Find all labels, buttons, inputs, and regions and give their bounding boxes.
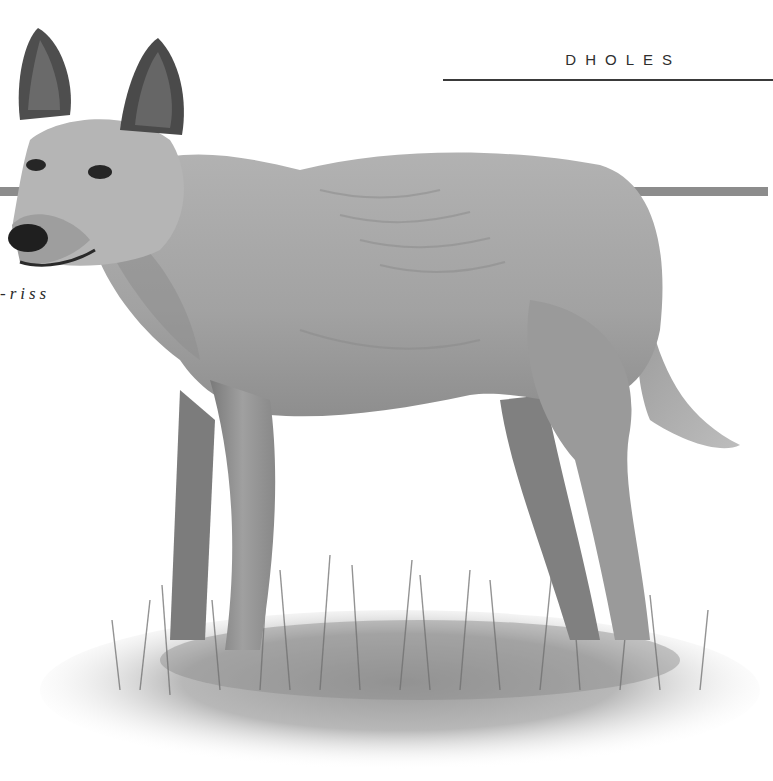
- pronunciation-fragment: -riss: [0, 284, 50, 304]
- chapter-underline: [443, 79, 773, 81]
- nose: [8, 224, 48, 252]
- book-page: DHOLES -riss: [0, 0, 773, 781]
- left-eye: [26, 159, 46, 171]
- chapter-title: DHOLES: [565, 51, 681, 68]
- near-foreleg: [210, 380, 275, 650]
- grass-patch: [40, 555, 760, 770]
- chapter-header: DHOLES: [443, 48, 773, 84]
- far-foreleg: [170, 390, 215, 640]
- dhole-illustration: [0, 0, 773, 781]
- right-eye: [88, 165, 112, 179]
